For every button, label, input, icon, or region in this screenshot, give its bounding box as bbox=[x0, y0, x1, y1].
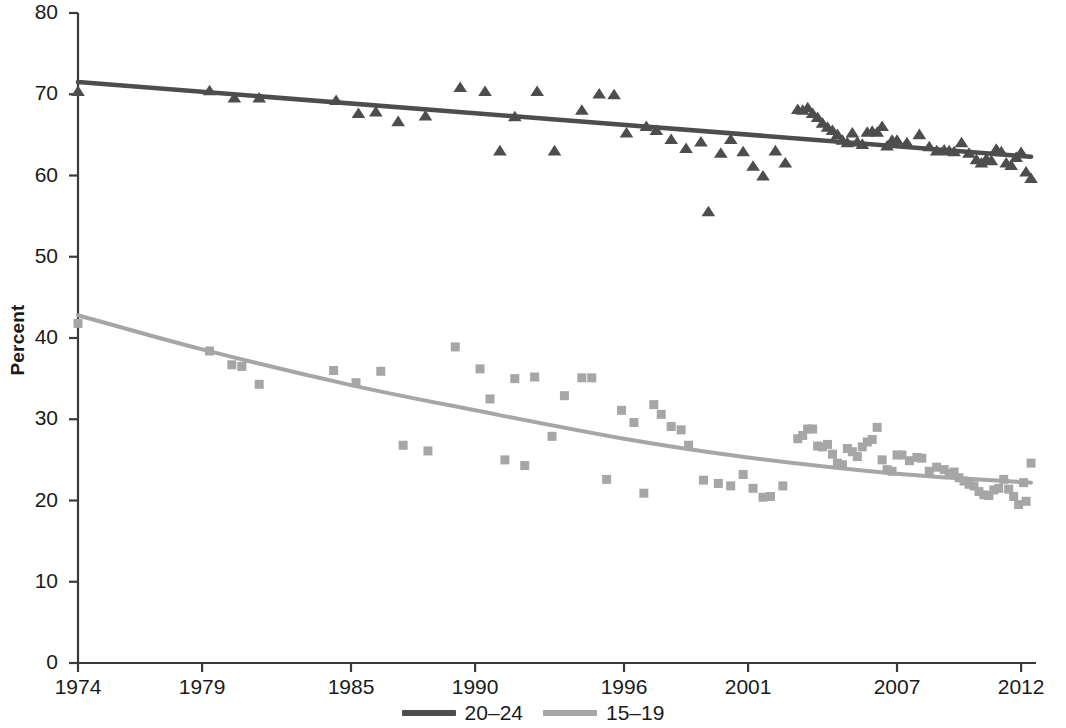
x-tick-label: 1985 bbox=[306, 675, 396, 699]
plot-canvas bbox=[0, 0, 1066, 728]
data-point bbox=[629, 418, 638, 427]
data-point bbox=[577, 373, 586, 382]
data-point bbox=[664, 133, 678, 144]
data-point bbox=[756, 170, 770, 181]
data-point bbox=[900, 137, 914, 148]
data-point bbox=[329, 366, 338, 375]
data-point bbox=[779, 157, 793, 168]
data-point bbox=[667, 422, 676, 431]
data-point bbox=[736, 146, 750, 157]
data-point bbox=[592, 88, 606, 99]
data-point bbox=[917, 454, 926, 463]
legend-label: 15–19 bbox=[606, 701, 664, 725]
chart-figure: Percent 01020304050607080 19741979198519… bbox=[0, 0, 1066, 728]
data-point bbox=[351, 378, 360, 387]
data-point bbox=[778, 481, 787, 490]
data-point bbox=[548, 145, 562, 156]
y-tick-label: 80 bbox=[6, 0, 58, 24]
y-tick-label: 10 bbox=[6, 569, 58, 593]
y-tick-label: 50 bbox=[6, 244, 58, 268]
data-point bbox=[853, 452, 862, 461]
data-point bbox=[994, 484, 1003, 493]
data-point bbox=[875, 120, 889, 131]
data-point bbox=[205, 347, 214, 356]
data-point bbox=[520, 461, 529, 470]
data-point bbox=[639, 489, 648, 498]
data-point bbox=[74, 319, 83, 328]
series-15-19 bbox=[74, 315, 1036, 509]
data-point bbox=[677, 425, 686, 434]
data-point bbox=[399, 441, 408, 450]
data-point bbox=[808, 425, 817, 434]
data-point bbox=[746, 160, 760, 171]
data-point bbox=[769, 145, 783, 156]
data-point bbox=[255, 380, 264, 389]
data-point bbox=[873, 423, 882, 432]
data-point bbox=[749, 484, 758, 493]
data-point bbox=[955, 137, 969, 148]
data-point bbox=[1009, 492, 1018, 501]
legend-label: 20–24 bbox=[465, 701, 523, 725]
chart-legend: 20–2415–19 bbox=[0, 698, 1066, 728]
axes-layer bbox=[69, 13, 1036, 672]
x-tick-label: 2007 bbox=[852, 675, 942, 699]
data-point bbox=[823, 440, 832, 449]
data-point bbox=[838, 460, 847, 469]
data-point bbox=[530, 373, 539, 382]
x-tick-label: 1996 bbox=[579, 675, 669, 699]
data-point bbox=[607, 89, 621, 100]
data-point bbox=[485, 394, 494, 403]
y-tick-label: 0 bbox=[6, 650, 58, 674]
y-tick-label: 40 bbox=[6, 325, 58, 349]
data-point bbox=[649, 400, 658, 409]
series-20-24 bbox=[71, 81, 1038, 216]
legend-swatch bbox=[543, 710, 597, 716]
data-point bbox=[999, 475, 1008, 484]
x-tick-label: 2012 bbox=[976, 675, 1066, 699]
data-point bbox=[500, 455, 509, 464]
data-point bbox=[560, 391, 569, 400]
data-point bbox=[602, 475, 611, 484]
legend-swatch bbox=[402, 710, 456, 716]
data-point bbox=[476, 364, 485, 373]
data-point bbox=[510, 374, 519, 383]
data-point bbox=[868, 435, 877, 444]
data-point bbox=[684, 441, 693, 450]
y-tick-label: 20 bbox=[6, 488, 58, 512]
data-point bbox=[478, 86, 492, 97]
data-point bbox=[575, 104, 589, 115]
data-point bbox=[451, 342, 460, 351]
data-point bbox=[1027, 459, 1036, 468]
series-layer bbox=[71, 81, 1038, 509]
data-point bbox=[828, 450, 837, 459]
data-point bbox=[237, 362, 246, 371]
data-point bbox=[739, 470, 748, 479]
y-tick-label: 70 bbox=[6, 81, 58, 105]
x-tick-label: 2001 bbox=[703, 675, 793, 699]
data-point bbox=[352, 107, 366, 118]
x-tick-label: 1979 bbox=[157, 675, 247, 699]
data-point bbox=[453, 81, 467, 92]
data-point bbox=[493, 145, 507, 156]
data-point bbox=[530, 86, 544, 97]
data-point bbox=[714, 479, 723, 488]
data-point bbox=[913, 129, 927, 140]
data-point bbox=[694, 136, 708, 147]
data-point bbox=[620, 127, 634, 138]
y-tick-label: 30 bbox=[6, 406, 58, 430]
data-point bbox=[423, 446, 432, 455]
y-tick-label: 60 bbox=[6, 163, 58, 187]
data-point bbox=[548, 432, 557, 441]
data-point bbox=[846, 127, 860, 138]
data-point bbox=[699, 476, 708, 485]
data-point bbox=[71, 86, 85, 97]
trend-line-15-19 bbox=[78, 315, 1031, 482]
data-point bbox=[587, 373, 596, 382]
data-point bbox=[766, 492, 775, 501]
legend-item-15-19: 15–19 bbox=[543, 701, 664, 725]
data-point bbox=[391, 116, 405, 127]
data-point bbox=[878, 455, 887, 464]
x-tick-label: 1990 bbox=[430, 675, 520, 699]
data-point bbox=[657, 410, 666, 419]
x-tick-label: 1974 bbox=[33, 675, 123, 699]
